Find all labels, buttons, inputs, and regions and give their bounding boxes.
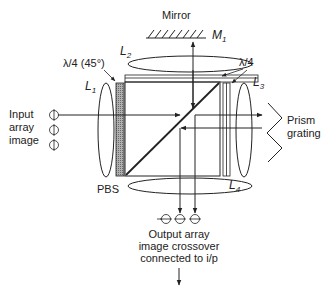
pbs-cube	[125, 82, 220, 176]
mirror-label: Mirror	[162, 9, 191, 21]
prism-label-line2: grating	[287, 127, 321, 139]
qwp-label: λ/4	[239, 56, 254, 68]
mirror-m1	[146, 30, 206, 38]
lens-l3	[236, 83, 252, 177]
input-label-line3: image	[9, 134, 39, 146]
input-label-line2: array	[9, 121, 35, 133]
lens-l2	[128, 56, 252, 72]
pbs-label: PBS	[97, 183, 119, 195]
output-label-line2: image crossover	[139, 240, 220, 252]
qwp45-label: λ/4 (45°)	[63, 57, 105, 69]
prism-label-line1: Prism	[287, 114, 315, 126]
input-label-line1: Input	[9, 108, 33, 120]
l2-label: L2	[120, 44, 132, 60]
input-array	[50, 109, 59, 151]
mirror-hatching	[148, 30, 203, 38]
l3-label: L3	[253, 75, 265, 91]
output-label-line3: connected to i/p	[140, 252, 218, 264]
qwp45-pointer-arrow	[104, 70, 115, 81]
output-array	[157, 215, 201, 224]
quarter-wave-plate-right	[223, 83, 230, 176]
quarter-wave-plate-top	[125, 75, 258, 82]
output-label-line1: Output array	[148, 228, 210, 240]
lens-l1	[98, 83, 114, 177]
quarter-wave-plate-45	[116, 83, 124, 176]
pbs-diagonal	[126, 83, 219, 175]
l1-label: L1	[85, 79, 96, 95]
prism-grating	[267, 103, 282, 162]
l4-label: L4	[229, 178, 241, 194]
optical-diagram: Mirror M1 L2 PBS λ/4 (45°) L1 λ/4 L3 L4 …	[0, 0, 327, 293]
m1-label: M1	[212, 28, 226, 44]
